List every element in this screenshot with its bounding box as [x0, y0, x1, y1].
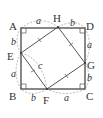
seg-gc: b: [87, 72, 92, 83]
right-angle-markers: [21, 28, 85, 89]
seg-fb: b: [31, 92, 36, 103]
equal-tick-marks: [31, 38, 73, 78]
dashed-arcs: [16, 21, 90, 94]
label-b: B: [9, 90, 16, 102]
pythagorean-square-diagram: A H D E G B F C a b a b a b a b c: [0, 0, 103, 118]
label-g: G: [87, 59, 95, 71]
seg-be: a: [11, 68, 16, 79]
inner-square-efgh: [21, 27, 85, 89]
seg-hd: b: [70, 17, 75, 28]
seg-ah: a: [36, 15, 41, 26]
label-f: F: [43, 94, 49, 106]
seg-dg: a: [87, 39, 92, 50]
label-a: A: [9, 20, 17, 32]
seg-ea: b: [11, 36, 16, 47]
seg-ef: c: [38, 60, 43, 71]
label-e: E: [7, 50, 14, 62]
vertex-dots: [20, 26, 86, 90]
label-d: D: [86, 20, 94, 32]
seg-cf: a: [64, 92, 69, 103]
label-h: H: [53, 12, 61, 24]
label-c: C: [86, 90, 93, 102]
outer-square-abcd: [21, 28, 85, 89]
